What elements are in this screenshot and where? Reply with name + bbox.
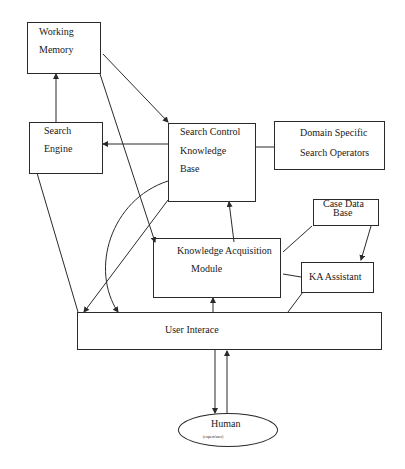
user-interface-label: User Interace xyxy=(165,321,219,339)
search-control-kb-line1: Search Control xyxy=(180,123,240,141)
domain-specific-line1: Domain Specific xyxy=(300,124,367,142)
working-memory-line1: Working xyxy=(39,23,74,41)
search-control-kb-line3: Base xyxy=(180,160,199,178)
ka-module-line1: Knowledge Acquisition xyxy=(177,242,272,260)
user-interface-box xyxy=(77,312,382,350)
ka-module-line2: Module xyxy=(191,260,222,278)
ka-assistant-label: KA Assistant xyxy=(309,268,362,286)
search-engine-line1: Search xyxy=(44,122,71,140)
domain-specific-line2: Search Operators xyxy=(300,144,369,162)
human-sublabel: (expert/user) xyxy=(203,434,223,439)
search-engine-line2: Engine xyxy=(44,140,72,158)
human-label: Human xyxy=(211,415,240,433)
case-data-base-line2: Base xyxy=(333,207,352,219)
working-memory-line2: Memory xyxy=(39,41,73,59)
search-control-kb-line2: Knowledge xyxy=(180,142,226,160)
